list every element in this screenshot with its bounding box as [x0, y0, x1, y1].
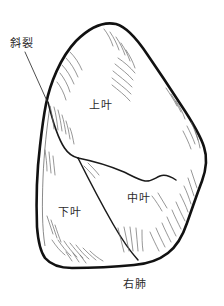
right-lung-diagram: [0, 0, 224, 306]
label-oblique-fissure: 斜裂: [10, 38, 33, 49]
label-organ-right-lung: 右肺: [123, 279, 146, 290]
label-upper-lobe: 上叶: [89, 100, 112, 111]
oblique-fissure-leader-line: [25, 52, 47, 101]
label-middle-lobe: 中叶: [127, 193, 150, 204]
label-lower-lobe: 下叶: [58, 207, 81, 218]
